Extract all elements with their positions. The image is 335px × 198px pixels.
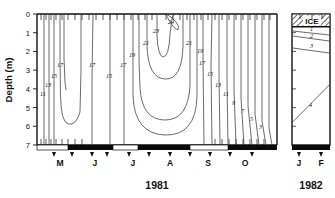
month-label-september: S [205,158,211,168]
contour-label-13a: 13 [45,81,51,88]
contour-label-17d: 17 [199,59,206,66]
contour-label-w2: 2 [310,32,313,39]
depth-tick-4: 4 [26,85,30,94]
depth-tick-0: 0 [26,10,30,19]
depth-tick-2: 2 [26,47,30,56]
contour-label-19b: 19 [197,47,203,54]
contour-label-24: 24 [168,18,174,25]
contour-label-w1: 1 [310,25,313,32]
contour-label-3: 3 [258,123,262,130]
contour-label-w4: 4 [309,101,312,108]
year-label-1982: 1982 [299,179,323,191]
month-label-august: A [167,158,173,168]
month-label-june: J [93,158,98,168]
contour-label-23: 23 [153,27,159,34]
depth-tick-7: 7 [26,141,30,150]
figure-canvas: 0 1 2 3 4 5 6 7 Depth (m) [0,0,335,198]
year-label-1981: 1981 [145,179,169,191]
ice-cover-bar-1982 [292,145,330,150]
contour-label-13b: 13 [215,81,221,88]
contour-label-17c: 17 [120,61,127,68]
depth-tick-6: 6 [26,122,30,131]
contour-label-17a: 17 [57,61,64,68]
temperature-isopleth-figure: 0 1 2 3 4 5 6 7 Depth (m) [0,0,335,198]
y-axis-title: Depth (m) [3,58,14,103]
depth-tick-5: 5 [26,104,30,113]
ice-cover-bar-1981 [37,145,277,150]
contour-label-17b: 17 [89,61,96,68]
month-label-march: M [56,158,63,168]
contour-label-19a: 19 [129,51,135,58]
contour-label-15a: 15 [51,72,57,79]
contour-label-11a: 11 [40,90,46,97]
contour-label-5: 5 [250,115,253,122]
month-label-july: J [131,158,136,168]
contour-label-9: 9 [232,99,235,106]
contour-label-21b: 21 [186,39,192,46]
depth-tick-1: 1 [26,29,30,38]
contour-label-11b: 11 [223,90,229,97]
depth-tick-3: 3 [26,66,30,75]
contour-label-15c: 15 [207,70,213,77]
month-label-february: F [318,158,323,168]
month-label-october: O [242,158,249,168]
month-label-january: J [297,158,302,168]
contour-label-w3: 3 [309,42,313,49]
contour-label-15b: 15 [106,72,112,79]
figure-background [0,0,335,198]
contour-label-21a: 21 [143,39,149,46]
